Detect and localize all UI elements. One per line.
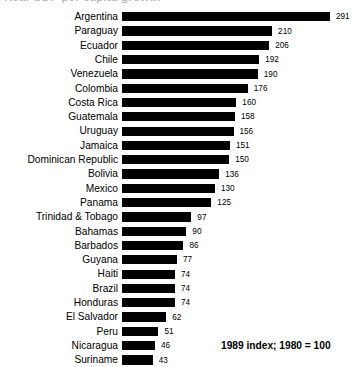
bar bbox=[122, 327, 158, 336]
bar-value-label: 151 bbox=[236, 141, 250, 150]
bar bbox=[122, 355, 153, 364]
bar-category-label: Colombia bbox=[0, 83, 118, 94]
bar-row: Bolivia136 bbox=[0, 168, 361, 182]
bar-value-label: 192 bbox=[265, 55, 279, 64]
bar-category-label: Bolivia bbox=[0, 168, 118, 179]
bar-fill bbox=[122, 55, 259, 64]
bar-fill bbox=[122, 341, 155, 350]
bar-row: Honduras74 bbox=[0, 297, 361, 311]
bar-fill bbox=[122, 69, 258, 78]
bar-fill bbox=[122, 12, 330, 21]
bar-row: Guatemala158 bbox=[0, 111, 361, 125]
bar-fill bbox=[122, 84, 248, 93]
bar bbox=[122, 255, 177, 264]
bar bbox=[122, 98, 236, 107]
bar bbox=[122, 198, 211, 207]
bar-fill bbox=[122, 98, 236, 107]
bar-category-label: Brazil bbox=[0, 283, 118, 294]
bar-fill bbox=[122, 184, 215, 193]
bar bbox=[122, 169, 219, 178]
bar-value-label: 150 bbox=[235, 155, 249, 164]
bar-fill bbox=[122, 355, 153, 364]
bar-row: El Salvador62 bbox=[0, 311, 361, 325]
bar bbox=[122, 270, 175, 279]
bar-fill bbox=[122, 155, 229, 164]
bar-value-label: 74 bbox=[181, 298, 190, 307]
bar-fill bbox=[122, 284, 175, 293]
bar-fill bbox=[122, 241, 183, 250]
bar-row: Trinidad & Tobago97 bbox=[0, 211, 361, 225]
bar bbox=[122, 155, 229, 164]
bar bbox=[122, 341, 155, 350]
chart-title: Real GDP per capita growth bbox=[4, 0, 304, 3]
bar-row: Guyana77 bbox=[0, 254, 361, 268]
bar-fill bbox=[122, 41, 269, 50]
bar-value-label: 158 bbox=[241, 112, 255, 121]
bar-fill bbox=[122, 227, 186, 236]
bar-category-label: Dominican Republic bbox=[0, 154, 118, 165]
bar-category-label: Ecuador bbox=[0, 40, 118, 51]
bar-row: Brazil74 bbox=[0, 283, 361, 297]
bar-fill bbox=[122, 327, 158, 336]
bar bbox=[122, 112, 235, 121]
bar-value-label: 156 bbox=[240, 127, 254, 136]
bar-value-label: 125 bbox=[217, 198, 231, 207]
bar-row: Uruguay156 bbox=[0, 125, 361, 139]
bar-category-label: Haiti bbox=[0, 268, 118, 279]
bar-category-label: Panama bbox=[0, 197, 118, 208]
bar-row: Paraguay210 bbox=[0, 25, 361, 39]
bar bbox=[122, 26, 272, 35]
bar bbox=[122, 284, 175, 293]
bar-category-label: Nicaragua bbox=[0, 340, 118, 351]
bar-category-label: Guyana bbox=[0, 254, 118, 265]
bar-category-label: Venezuela bbox=[0, 68, 118, 79]
bar-category-label: Costa Rica bbox=[0, 97, 118, 108]
bar-fill bbox=[122, 312, 166, 321]
bar bbox=[122, 312, 166, 321]
bar-value-label: 46 bbox=[161, 341, 170, 350]
bar bbox=[122, 84, 248, 93]
bar-value-label: 291 bbox=[336, 12, 350, 21]
bar-fill bbox=[122, 127, 234, 136]
bar-row: Dominican Republic150 bbox=[0, 154, 361, 168]
bar bbox=[122, 227, 186, 236]
bar-fill bbox=[122, 298, 175, 307]
bar bbox=[122, 41, 269, 50]
bar bbox=[122, 184, 215, 193]
bar-row: Haiti74 bbox=[0, 268, 361, 282]
bar-value-label: 74 bbox=[181, 270, 190, 279]
bar-value-label: 62 bbox=[172, 313, 181, 322]
bar-fill bbox=[122, 141, 230, 150]
bar bbox=[122, 127, 234, 136]
bar-value-label: 90 bbox=[192, 227, 201, 236]
bar-row: Argentina291 bbox=[0, 11, 361, 25]
chart-footnote: 1989 index; 1980 = 100 bbox=[221, 340, 331, 351]
bar-category-label: Trinidad & Tobago bbox=[0, 211, 118, 222]
bar-value-label: 160 bbox=[242, 98, 256, 107]
bar-row: Ecuador206 bbox=[0, 40, 361, 54]
bar-category-label: Jamaica bbox=[0, 140, 118, 151]
bar bbox=[122, 298, 175, 307]
bar-category-label: Honduras bbox=[0, 297, 118, 308]
bar-category-label: El Salvador bbox=[0, 311, 118, 322]
bar bbox=[122, 212, 191, 221]
bar-row: Colombia176 bbox=[0, 83, 361, 97]
bar-value-label: 206 bbox=[275, 41, 289, 50]
bar bbox=[122, 141, 230, 150]
bar-category-label: Barbados bbox=[0, 240, 118, 251]
bar-row: Mexico130 bbox=[0, 183, 361, 197]
bar-fill bbox=[122, 212, 191, 221]
bar bbox=[122, 55, 259, 64]
bar-value-label: 97 bbox=[197, 213, 206, 222]
bar-row: Barbados86 bbox=[0, 240, 361, 254]
bar-value-label: 74 bbox=[181, 284, 190, 293]
bar-category-label: Bahamas bbox=[0, 226, 118, 237]
bar-category-label: Peru bbox=[0, 326, 118, 337]
bar bbox=[122, 241, 183, 250]
bar-row: Jamaica151 bbox=[0, 140, 361, 154]
bar bbox=[122, 12, 330, 21]
bar bbox=[122, 69, 258, 78]
bar-row: Costa Rica160 bbox=[0, 97, 361, 111]
bar-value-label: 176 bbox=[254, 84, 268, 93]
bar-chart-plot-area: Argentina291Paraguay210Ecuador206Chile19… bbox=[0, 11, 361, 357]
